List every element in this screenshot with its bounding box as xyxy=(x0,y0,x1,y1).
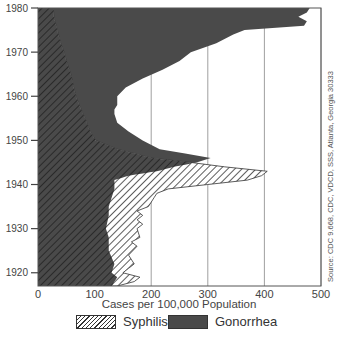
y-axis-ticks: 1920193019401950196019701980 xyxy=(6,3,38,279)
svg-text:1960: 1960 xyxy=(6,91,29,102)
legend: Syphilis Gonorrhea xyxy=(0,314,351,338)
chart: 1920193019401950196019701980 01002003004… xyxy=(0,0,351,346)
solid-swatch-icon xyxy=(168,315,208,329)
svg-text:1970: 1970 xyxy=(6,47,29,58)
svg-text:1930: 1930 xyxy=(6,223,29,234)
svg-text:1950: 1950 xyxy=(6,135,29,146)
legend-item-syphilis: Syphilis xyxy=(76,314,168,329)
svg-text:0: 0 xyxy=(35,288,41,300)
svg-text:500: 500 xyxy=(312,288,330,300)
hatch-swatch-icon xyxy=(76,315,116,329)
svg-text:400: 400 xyxy=(255,288,273,300)
svg-text:1980: 1980 xyxy=(6,3,29,14)
source-annotation: Source: CDC 9.668, CDC, VDCD, SSS, Atlan… xyxy=(326,71,335,282)
legend-label-gonorrhea: Gonorrhea xyxy=(215,314,277,329)
svg-text:1920: 1920 xyxy=(6,267,29,278)
svg-text:1940: 1940 xyxy=(6,179,29,190)
legend-item-gonorrhea: Gonorrhea xyxy=(168,314,277,329)
x-axis-label: Cases per 100,000 Population xyxy=(102,298,257,310)
legend-label-syphilis: Syphilis xyxy=(123,314,168,329)
